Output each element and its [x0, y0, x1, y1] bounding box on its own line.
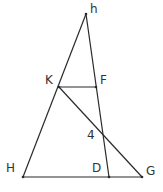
label-h: h — [90, 2, 98, 16]
label-F: F — [100, 73, 107, 87]
point-F — [95, 86, 98, 89]
point-D — [108, 176, 111, 179]
label-H: H — [6, 161, 15, 175]
segment-hD — [86, 14, 109, 177]
point-h — [85, 13, 88, 16]
point-K — [58, 86, 61, 89]
point-H — [22, 176, 25, 179]
segment-hH — [23, 14, 86, 177]
geometry-diagram: h K F H D G 4 — [0, 0, 163, 192]
label-D: D — [92, 161, 101, 175]
label-G: G — [146, 164, 155, 178]
label-K: K — [45, 73, 54, 87]
label-intersection: 4 — [87, 128, 95, 142]
point-G — [141, 176, 144, 179]
